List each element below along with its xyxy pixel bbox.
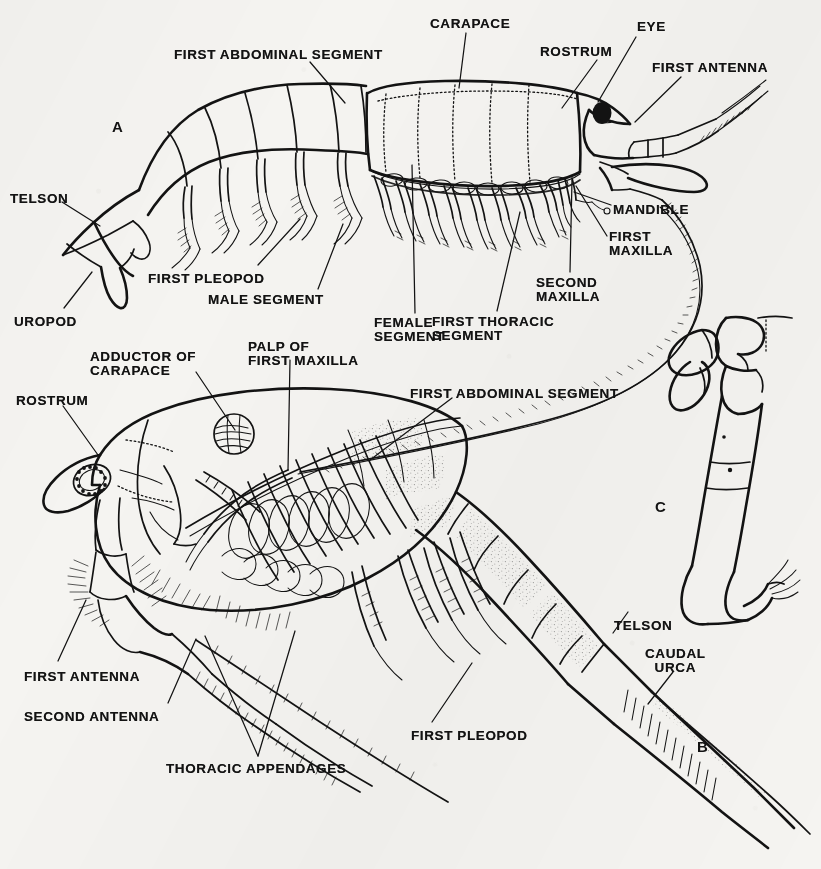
figure-key-c: C [655,498,666,515]
antennule-setae [68,556,166,626]
label-second-maxilla: SECOND MAXILLA [536,276,600,303]
label-thoracic-appendages: THORACIC APPENDAGES [166,762,346,776]
label-rostrum-b: ROSTRUM [16,394,88,408]
label-mandible: MANDIBLE [613,203,689,217]
label-carapace: CARAPACE [430,17,510,31]
label-palp-of-first-maxilla: PALP OF FIRST MAXILLA [248,340,359,367]
label-first-pleopod-a: FIRST PLEOPOD [148,272,265,286]
label-first-abdominal-segment-b: FIRST ABDOMINAL SEGMENT [410,387,619,401]
figure-b-dissected-animal [44,388,811,848]
figure-key-a: A [112,118,123,135]
label-adductor-of-carapace: ADDUCTOR OF CARAPACE [90,350,196,377]
abdomen-stipple [456,508,600,668]
label-first-maxilla: FIRST MAXILLA [609,230,673,257]
label-male-segment: MALE SEGMENT [208,293,324,307]
label-first-thoracic-segment: FIRST THORACIC SEGMENT [432,315,554,342]
label-first-antenna-a: FIRST ANTENNA [652,61,768,75]
figure-key-b: B [697,738,708,755]
label-telson-b: TELSON [614,619,672,633]
furca-stipple [652,694,768,800]
label-second-antenna: SECOND ANTENNA [24,710,159,724]
terminal-setae [768,560,800,599]
label-eye: EYE [637,20,666,34]
label-uropod: UROPOD [14,315,77,329]
ventral-setae [152,570,290,630]
label-rostrum-a: ROSTRUM [540,45,612,59]
label-caudal-furca: CAUDAL URCA [645,647,706,674]
label-telson-a: TELSON [10,192,68,206]
label-first-abdominal-segment-a: FIRST ABDOMINAL SEGMENT [174,48,383,62]
label-first-antenna-b: FIRST ANTENNA [24,670,140,684]
illustration-plate: .s{fill:none;stroke:#131313;stroke-linec… [0,0,821,869]
figure-c-appendage [669,317,800,625]
label-first-pleopod-b: FIRST PLEOPOD [411,729,528,743]
